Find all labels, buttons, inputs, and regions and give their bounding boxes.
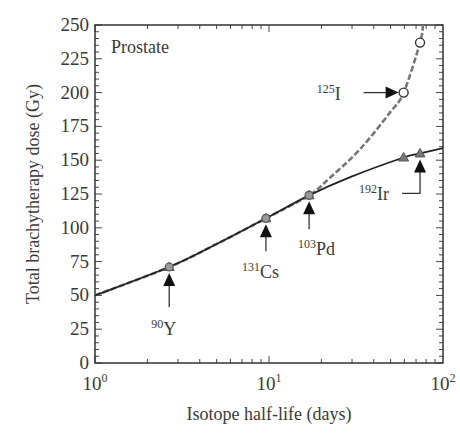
y-tick-label: 175 [61,115,90,136]
y-tick-label: 75 [70,251,89,272]
panel-label: Prostate [111,37,169,57]
plot-frame [95,25,443,363]
arrow-right-icon [386,87,399,99]
dose-vs-half-life-chart: 0255075100125150175200225250 100101102 9… [0,0,460,444]
circle-marker [305,191,313,199]
isotope-label: 131Cs [242,260,279,282]
isotope-label: 90Y [151,317,176,339]
isotope-label: 103Pd [298,237,335,259]
arrow-up-icon [163,273,175,286]
y-tick-label: 100 [61,217,90,238]
circle-marker [165,263,173,271]
circle-marker [262,214,270,222]
open-circle-marker [416,38,425,47]
arrow-up-icon [303,201,315,214]
open-circle-marker [399,88,408,97]
y-tick-label: 250 [61,14,90,35]
arrow-up-icon [260,224,272,237]
y-tick-label: 125 [61,183,90,204]
y-tick-label: 200 [61,82,90,103]
y-tick-label: 225 [61,48,90,69]
y-axis-title: Total brachytherapy dose (Gy) [23,84,44,304]
x-tick-label: 100 [83,371,108,394]
x-tick-label: 101 [257,371,282,394]
y-tick-label: 50 [70,284,89,305]
data-markers [164,38,425,271]
x-axis-title: Isotope half-life (days) [187,404,352,425]
isotope-label: 192Ir [359,182,389,204]
y-tick-label: 150 [61,149,90,170]
data-curves [95,25,443,295]
x-tick-labels: 100101102 [83,371,456,394]
y-tick-label: 0 [80,352,90,373]
isotope-label: 125I [317,82,341,104]
x-tick-label: 102 [431,371,456,394]
y-tick-label: 25 [70,318,89,339]
dashed-curve [95,25,423,295]
arrow-up-icon [414,159,426,172]
y-tick-labels: 0255075100125150175200225250 [61,14,90,373]
axis-ticks [95,25,443,363]
